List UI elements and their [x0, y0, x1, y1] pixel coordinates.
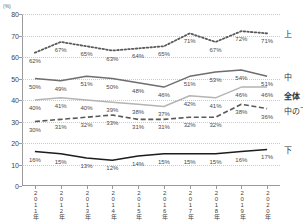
data-point-label: 38%: [235, 109, 247, 115]
x-axis-tick-mark: [87, 186, 88, 189]
legend-label-4: 下: [284, 144, 292, 155]
y-axis-tick-label: 40: [11, 97, 19, 104]
legend-label-0: 上: [284, 28, 292, 39]
x-axis-tick-mark: [138, 186, 139, 189]
data-point-label: 48%: [132, 88, 144, 94]
data-point-label: 72%: [235, 36, 247, 42]
x-axis-tick-mark: [267, 186, 268, 189]
series-line: [35, 104, 267, 121]
data-point-label: 12%: [106, 165, 118, 171]
data-point-label: 40%: [29, 105, 41, 111]
data-point-label: 67%: [209, 47, 221, 53]
y-axis-unit-label: (%): [3, 3, 11, 9]
data-point-label: 38%: [132, 109, 144, 115]
x-axis-tick-label: 2016年: [161, 190, 167, 220]
data-point-label: 30%: [29, 127, 41, 133]
x-axis-tick-label: 2019年: [239, 190, 245, 220]
x-axis-tick-label: 2012年: [58, 190, 64, 220]
data-point-label: 51%: [184, 81, 196, 87]
data-point-label: 36%: [261, 114, 273, 120]
y-axis-tick-label: 50: [11, 75, 19, 82]
data-point-label: 31%: [158, 124, 170, 130]
data-point-label: 65%: [158, 51, 170, 57]
line-chart: (%) 010203040506070802011年2012年2013年2014…: [0, 0, 303, 221]
data-point-label: 15%: [55, 159, 67, 165]
data-point-label: 64%: [132, 53, 144, 59]
y-axis-tick-label: 30: [11, 118, 19, 125]
data-point-label: 32%: [184, 122, 196, 128]
x-axis-tick-label: 2017年: [187, 190, 193, 220]
data-point-label: 16%: [29, 157, 41, 163]
x-axis-tick-label: 2015年: [135, 190, 141, 220]
data-point-label: 16%: [235, 157, 247, 163]
x-axis-tick-mark: [35, 186, 36, 189]
data-point-label: 42%: [184, 101, 196, 107]
plot-area: 010203040506070802011年2012年2013年2014年201…: [22, 14, 280, 186]
legend-label-3: 中の下: [284, 104, 303, 115]
x-axis-tick-mark: [216, 186, 217, 189]
data-point-label: 67%: [55, 47, 67, 53]
data-point-label: 41%: [209, 103, 221, 109]
legend-label-1: 中: [284, 71, 292, 82]
data-point-label: 51%: [261, 81, 273, 87]
data-point-label: 49%: [55, 86, 67, 92]
series-line: [35, 87, 267, 106]
data-point-label: 40%: [80, 105, 92, 111]
data-point-label: 50%: [29, 84, 41, 90]
y-axis-tick-label: 70: [11, 32, 19, 39]
data-point-label: 62%: [29, 58, 41, 64]
x-axis-tick-label: 2020年: [264, 190, 270, 220]
data-point-label: 32%: [209, 122, 221, 128]
series-line: [35, 149, 267, 160]
data-point-label: 39%: [106, 107, 118, 113]
data-point-label: 31%: [55, 124, 67, 130]
data-point-label: 15%: [209, 159, 221, 165]
data-point-label: 17%: [261, 154, 273, 160]
data-point-label: 46%: [261, 92, 273, 98]
series-line: [35, 70, 267, 87]
y-axis-tick-mark: [19, 186, 22, 187]
x-axis-tick-label: 2011年: [32, 190, 38, 220]
y-axis-tick-label: 60: [11, 54, 19, 61]
legend-label-2: 全体: [284, 90, 300, 101]
data-point-label: 33%: [106, 120, 118, 126]
y-axis-tick-label: 20: [11, 140, 19, 147]
series-line: [35, 31, 267, 53]
data-point-label: 51%: [80, 81, 92, 87]
data-point-label: 50%: [106, 84, 118, 90]
data-point-label: 46%: [235, 92, 247, 98]
x-axis-tick-mark: [190, 186, 191, 189]
data-point-label: 46%: [158, 92, 170, 98]
data-point-label: 14%: [132, 161, 144, 167]
data-point-label: 15%: [184, 159, 196, 165]
x-axis-tick-label: 2013年: [84, 190, 90, 220]
y-axis-tick-label: 80: [11, 11, 19, 18]
data-point-label: 54%: [235, 75, 247, 81]
data-point-label: 32%: [80, 122, 92, 128]
data-point-label: 71%: [184, 38, 196, 44]
data-point-label: 41%: [55, 103, 67, 109]
x-axis-tick-mark: [61, 186, 62, 189]
x-axis-tick-label: 2018年: [213, 190, 219, 220]
y-axis-tick-label: 10: [11, 161, 19, 168]
data-point-label: 71%: [261, 38, 273, 44]
x-axis-tick-mark: [241, 186, 242, 189]
data-point-label: 65%: [80, 51, 92, 57]
data-point-label: 15%: [158, 159, 170, 165]
data-point-label: 13%: [80, 163, 92, 169]
data-point-label: 53%: [209, 77, 221, 83]
x-axis-tick-mark: [112, 186, 113, 189]
data-point-label: 63%: [106, 56, 118, 62]
x-axis-tick-label: 2014年: [110, 190, 116, 220]
data-point-label: 31%: [132, 124, 144, 130]
x-axis-tick-mark: [164, 186, 165, 189]
data-point-label: 37%: [158, 111, 170, 117]
